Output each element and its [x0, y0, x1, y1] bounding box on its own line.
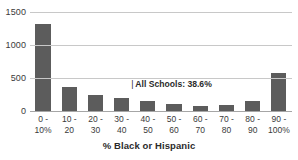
x-axis-tick-label: 60 -70 — [187, 114, 213, 136]
x-axis-tick-label: 50 -60 — [161, 114, 187, 136]
x-tick-line-2: 40 — [109, 125, 135, 136]
x-tick-line-1: 20 - — [82, 114, 108, 125]
x-tick-line-2: 60 — [161, 125, 187, 136]
bar[interactable] — [114, 98, 129, 111]
x-tick-line-1: 40 - — [135, 114, 161, 125]
x-tick-line-1: 30 - — [109, 114, 135, 125]
bar[interactable] — [166, 104, 181, 111]
bar-slot — [56, 12, 82, 111]
x-axis-tick-label: 70 -80 — [213, 114, 239, 136]
bar[interactable] — [271, 73, 286, 111]
x-tick-line-2: 50 — [135, 125, 161, 136]
plot-area — [30, 12, 292, 111]
x-tick-line-1: 50 - — [161, 114, 187, 125]
x-tick-line-2: 30 — [82, 125, 108, 136]
x-tick-line-1: 80 - — [240, 114, 266, 125]
bar[interactable] — [35, 24, 50, 111]
bar-chart: 050010001500 0 -10%10 -2020 -3030 -4040 … — [0, 0, 298, 160]
x-tick-line-2: 10% — [30, 125, 56, 136]
y-axis-tick-label: 1500 — [0, 8, 26, 17]
x-axis-tick-label: 0 -10% — [30, 114, 56, 136]
gridline — [30, 111, 292, 112]
x-axis-tick-label: 10 -20 — [56, 114, 82, 136]
y-axis-tick-label: 0 — [0, 107, 26, 116]
bar[interactable] — [88, 95, 103, 112]
x-tick-line-2: 100% — [266, 125, 292, 136]
x-tick-line-2: 20 — [56, 125, 82, 136]
x-tick-line-2: 80 — [213, 125, 239, 136]
x-tick-line-2: 90 — [240, 125, 266, 136]
gridline — [30, 45, 292, 46]
y-axis-tick-label: 1000 — [0, 41, 26, 50]
bar-slot — [135, 12, 161, 111]
bar[interactable] — [62, 87, 77, 111]
bar-slot — [82, 12, 108, 111]
bar[interactable] — [245, 101, 260, 111]
bar-slot — [213, 12, 239, 111]
gridline — [30, 12, 292, 13]
annotation-marker-icon: | — [131, 79, 133, 89]
x-axis-tick-label: 90 -100% — [266, 114, 292, 136]
bar-slot — [240, 12, 266, 111]
bar-slot — [266, 12, 292, 111]
x-tick-line-2: 70 — [187, 125, 213, 136]
bar-slot — [30, 12, 56, 111]
x-axis-title: % Black or Hispanic — [0, 140, 298, 151]
bar-slot — [109, 12, 135, 111]
bar-slot — [161, 12, 187, 111]
annotation-label: All Schools: 38.6% — [135, 79, 211, 89]
bars-layer — [30, 12, 292, 111]
y-axis-tick-label: 500 — [0, 74, 26, 83]
bar-slot — [187, 12, 213, 111]
x-axis-tick-label: 40 -50 — [135, 114, 161, 136]
bar[interactable] — [140, 101, 155, 111]
x-axis-tick-label: 20 -30 — [82, 114, 108, 136]
x-axis-tick-label: 80 -90 — [240, 114, 266, 136]
x-tick-line-1: 70 - — [213, 114, 239, 125]
x-tick-line-1: 60 - — [187, 114, 213, 125]
x-tick-line-1: 10 - — [56, 114, 82, 125]
x-tick-line-1: 90 - — [266, 114, 292, 125]
x-tick-line-1: 0 - — [30, 114, 56, 125]
all-schools-annotation: |All Schools: 38.6% — [131, 79, 212, 89]
x-axis-tick-label: 30 -40 — [109, 114, 135, 136]
